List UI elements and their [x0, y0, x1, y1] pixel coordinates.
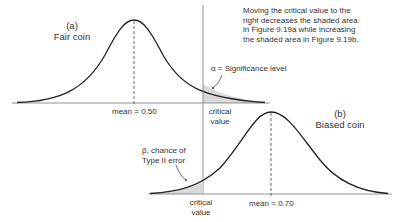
beta-pointer-arrow — [176, 165, 186, 180]
alpha-pointer-arrow — [213, 75, 222, 88]
alpha-label: α = Significance level — [211, 64, 287, 74]
note-line: in Figure 9.19a while increasing — [243, 25, 359, 35]
panel-a-name: Fair coin — [50, 31, 94, 42]
critical-label-line: value — [200, 117, 240, 127]
mean-label-a: mean = 0.50 — [112, 107, 157, 117]
critical-label-line: value — [181, 208, 221, 218]
critical-label-b: critical value — [181, 198, 221, 217]
panel-b-name: Biased coin — [313, 119, 367, 130]
panel-a-letter: (a) — [50, 20, 94, 31]
note-line: right decreases the shaded area — [243, 16, 359, 26]
critical-label-a: critical value — [200, 107, 240, 126]
panel-a-title: (a) Fair coin — [50, 20, 94, 42]
panel-b-letter: (b) — [313, 108, 367, 119]
beta-label: β, chance of Type II error — [142, 146, 186, 165]
critical-label-line: critical — [200, 107, 240, 117]
beta-label-line: β, chance of — [142, 146, 186, 156]
note-line: the shaded area in Figure 9.19b. — [243, 35, 359, 45]
mean-label-b: mean = 0.70 — [249, 199, 294, 209]
beta-label-line: Type II error — [142, 156, 186, 166]
critical-label-line: critical — [181, 198, 221, 208]
note-line: Moving the critical value to the — [243, 6, 359, 16]
explanation-note: Moving the critical value to the right d… — [243, 6, 359, 44]
panel-b-title: (b) Biased coin — [313, 108, 367, 130]
alpha-shaded-region — [203, 84, 265, 103]
